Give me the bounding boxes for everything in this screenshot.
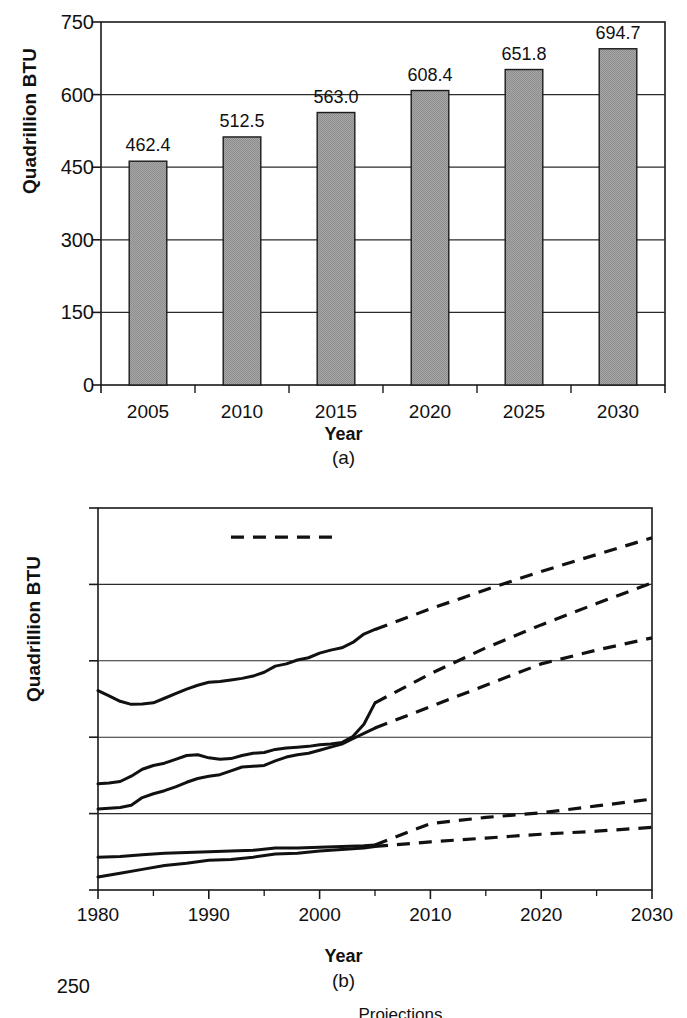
panel-a-bar-label-2030: 694.7 bbox=[595, 23, 640, 44]
series-coal bbox=[98, 583, 652, 784]
panel-a-y-tick-600: 600 bbox=[22, 85, 94, 105]
panel-b-x-tick-2020: 2020 bbox=[520, 904, 562, 926]
figure-container: Quadrillion BTU 0150300450600750462.4200… bbox=[0, 0, 687, 1018]
panel-a-x-tick-2020: 2020 bbox=[409, 401, 451, 423]
panel-a-x-tick-2010: 2010 bbox=[221, 401, 263, 423]
panel-a-y-tick-450: 450 bbox=[22, 157, 94, 177]
chart-panel-b: Quadrillion BTU 050100150200250198019902… bbox=[0, 478, 687, 1018]
panel-a-bar-label-2010: 512.5 bbox=[219, 111, 264, 132]
series-oil bbox=[98, 538, 652, 705]
panel-b-x-axis-label: Year bbox=[0, 946, 687, 967]
panel-a-x-tick-2005: 2005 bbox=[127, 401, 169, 423]
panel-a-y-tick-0: 0 bbox=[22, 375, 94, 395]
panel-b-legend-label-projections: Projections bbox=[358, 1005, 442, 1018]
panel-b-caption: (b) bbox=[0, 970, 687, 992]
panel-a-y-tick-300: 300 bbox=[22, 230, 94, 250]
panel-b-x-tick-2000: 2000 bbox=[298, 904, 340, 926]
panel-a-x-tick-2030: 2030 bbox=[597, 401, 639, 423]
panel-b-plot bbox=[0, 478, 687, 1018]
panel-b-x-tick-1980: 1980 bbox=[77, 904, 119, 926]
panel-b-x-tick-1990: 1990 bbox=[188, 904, 230, 926]
panel-a-x-tick-2015: 2015 bbox=[315, 401, 357, 423]
panel-b-x-tick-2010: 2010 bbox=[409, 904, 451, 926]
series-nuclear bbox=[98, 799, 652, 857]
panel-a-bar-label-2025: 651.8 bbox=[501, 44, 546, 65]
panel-a-plot bbox=[0, 0, 687, 470]
panel-a-caption: (a) bbox=[0, 447, 687, 469]
panel-a-y-tick-750: 750 bbox=[22, 12, 94, 32]
panel-a-bar-label-2005: 462.4 bbox=[125, 135, 170, 156]
series-natural-gas bbox=[98, 638, 652, 809]
panel-a-bar-label-2015: 563.0 bbox=[313, 87, 358, 108]
panel-a-x-tick-2025: 2025 bbox=[503, 401, 545, 423]
panel-a-y-tick-150: 150 bbox=[22, 302, 94, 322]
panel-a-x-axis-label: Year bbox=[0, 424, 687, 445]
chart-panel-a: Quadrillion BTU 0150300450600750462.4200… bbox=[0, 0, 687, 470]
panel-b-x-tick-2030: 2030 bbox=[631, 904, 673, 926]
panel-a-bar-label-2020: 608.4 bbox=[407, 65, 452, 86]
